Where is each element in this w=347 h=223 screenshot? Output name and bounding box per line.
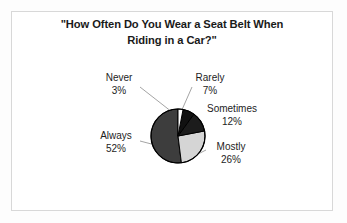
pie-label-sometimes: Sometimes 12% xyxy=(198,103,266,128)
chart-canvas: "How Often Do You Wear a Seat Belt When … xyxy=(0,0,347,223)
pie-label-sometimes-name: Sometimes xyxy=(198,103,266,116)
chart-title-line-1: "How Often Do You Wear a Seat Belt When xyxy=(26,17,318,33)
pie-label-never: Never 3% xyxy=(96,72,142,97)
pie-label-mostly-name: Mostly xyxy=(208,141,254,154)
pie-label-sometimes-percent: 12% xyxy=(198,116,266,129)
chart-title-line-2: Riding in a Car?" xyxy=(26,33,318,49)
pie-label-rarely-name: Rarely xyxy=(188,72,232,85)
pie-label-always-name: Always xyxy=(92,130,140,143)
pie-label-rarely: Rarely 7% xyxy=(188,72,232,97)
pie-label-always-percent: 52% xyxy=(92,143,140,156)
pie-label-never-percent: 3% xyxy=(96,85,142,98)
pie-label-mostly: Mostly 26% xyxy=(208,141,254,166)
pie-label-always: Always 52% xyxy=(92,130,140,155)
pie-label-never-name: Never xyxy=(96,72,142,85)
chart-title: "How Often Do You Wear a Seat Belt When … xyxy=(26,17,318,48)
pie-label-mostly-percent: 26% xyxy=(208,154,254,167)
pie-label-rarely-percent: 7% xyxy=(188,85,232,98)
